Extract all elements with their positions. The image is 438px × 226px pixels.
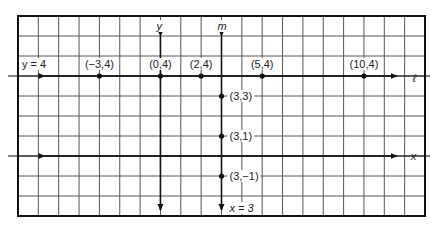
point	[199, 73, 204, 78]
point-label: (3,3)	[230, 90, 253, 102]
point-label: (3,−1)	[230, 170, 259, 182]
point	[219, 133, 224, 138]
point-label: (5,4)	[251, 58, 274, 70]
line-l-equation: y = 4	[22, 58, 46, 70]
line-l-name: ℓ	[412, 72, 417, 84]
point	[361, 73, 366, 78]
point-label: (10,4)	[350, 58, 379, 70]
line-m-equation: x = 3	[229, 202, 255, 214]
point	[219, 93, 224, 98]
point-label: (3,1)	[230, 130, 253, 142]
line-m-name: m	[218, 20, 227, 32]
point	[260, 73, 265, 78]
point-label: (2,4)	[190, 58, 213, 70]
point	[219, 173, 224, 178]
point-label: (0,4)	[149, 58, 172, 70]
point-label: (−3,4)	[85, 58, 114, 70]
x-axis-label: x	[410, 150, 417, 162]
point	[97, 73, 102, 78]
point	[158, 73, 163, 78]
coordinate-grid-diagram: (−3,4)(0,4)(2,4)(5,4)(10,4)(3,3)(3,1)(3,…	[0, 0, 438, 226]
